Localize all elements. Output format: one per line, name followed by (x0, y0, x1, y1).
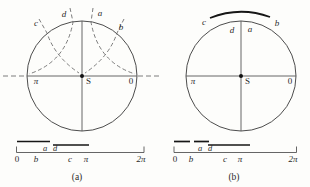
panel-b-tick-2pi: 2π (288, 154, 298, 164)
panel-b-tick-b: b (189, 154, 194, 164)
panel-b-label-a: a (248, 24, 253, 34)
panel-a-label-s: S (86, 76, 91, 86)
panel-b-tick-0: 0 (173, 154, 178, 164)
figure: c d a b S π 0 a d 0 b c π 2π (a) (0, 0, 310, 187)
panel-a-caption: (a) (72, 172, 83, 183)
panel-b: c b d a S π 0 a d 0 b c π 2π (b) (173, 12, 298, 183)
panel-b-caption: (b) (228, 172, 239, 183)
panel-b-number-line: a d 0 b c π 2π (173, 142, 298, 165)
panel-a-dashed-arc-c (39, 19, 79, 73)
panel-b-label-s: S (245, 76, 250, 86)
panel-b-interval-label-a: a (198, 143, 202, 153)
panel-a-tick-pi: π (84, 154, 89, 164)
panel-b-bold-arc (210, 12, 270, 18)
panel-a-label-c: c (34, 18, 38, 28)
panel-b-label-c: c (202, 17, 206, 27)
panel-a-interval-label-a: a (43, 143, 47, 153)
panel-a-tick-2pi: 2π (136, 154, 146, 164)
panel-a-label-a: a (98, 8, 103, 18)
panel-b-label-b: b (275, 18, 280, 28)
panel-b-tick-pi: π (238, 154, 243, 164)
panel-a-tick-c: c (68, 154, 72, 164)
panel-a-label-pi: π (34, 76, 39, 86)
panel-a-tick-0: 0 (15, 154, 20, 164)
figure-canvas: c d a b S π 0 a d 0 b c π 2π (a) (0, 0, 310, 187)
panel-b-label-pi: π (191, 76, 196, 86)
panel-b-center-dot (239, 74, 243, 78)
panel-a-center-dot (80, 74, 84, 78)
panel-b-label-zero: 0 (288, 76, 293, 86)
panel-a: c d a b S π 0 a d 0 b c π 2π (a) (3, 8, 160, 183)
panel-a-tick-b: b (34, 154, 39, 164)
panel-b-label-d: d (230, 25, 235, 35)
panel-a-label-b: b (119, 22, 124, 32)
panel-a-number-line: a d 0 b c π 2π (15, 142, 146, 165)
panel-b-tick-c: c (223, 154, 227, 164)
panel-a-label-zero: 0 (129, 76, 134, 86)
panel-a-label-d: d (62, 9, 67, 19)
